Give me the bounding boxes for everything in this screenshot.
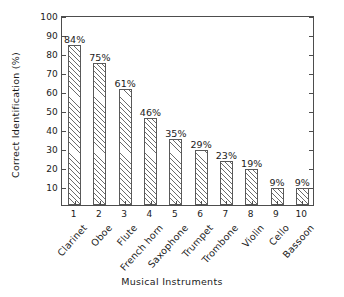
y-axis-tick-right (309, 150, 313, 151)
y-axis-tick-label: 70 (46, 69, 58, 79)
bar-value-label: 84% (64, 34, 85, 45)
y-axis-tick (62, 150, 66, 151)
y-axis-tick-right (309, 112, 313, 113)
y-axis-tick-right (309, 74, 313, 75)
y-axis-tick (62, 93, 66, 94)
y-axis-tick-label: 10 (46, 183, 58, 193)
bar (93, 63, 106, 206)
y-axis-tick-label: 50 (46, 107, 58, 117)
bar-value-label: 61% (115, 78, 136, 89)
bar-value-label: 35% (165, 128, 186, 139)
bar (68, 45, 81, 205)
y-axis-tick-right (309, 131, 313, 132)
x-axis-tick-label: 9 (273, 209, 279, 219)
chart-page: Correct Identification (%) 1020304050607… (0, 0, 344, 297)
y-axis-tick-label: 80 (46, 50, 58, 60)
x-axis-tick (151, 201, 152, 205)
x-axis-tick-label: 7 (222, 209, 228, 219)
y-axis-tick-label: 100 (40, 12, 58, 22)
bar-value-label: 9% (269, 177, 284, 188)
y-axis-tick-right (309, 188, 313, 189)
y-axis-tick-label: 90 (46, 31, 58, 41)
y-axis-tick-right (309, 55, 313, 56)
category-label-text: Clarinet (55, 222, 89, 258)
y-axis-tick-right (309, 36, 313, 37)
y-axis-tick-right (309, 93, 313, 94)
x-axis-tick-label: 5 (172, 209, 178, 219)
y-axis-tick-right (309, 17, 313, 18)
y-axis-tick-label: 20 (46, 164, 58, 174)
bar-value-label: 9% (295, 177, 310, 188)
x-axis-tick (302, 201, 303, 205)
x-axis-tick-label: 6 (197, 209, 203, 219)
y-axis-tick (62, 188, 66, 189)
plot-area: 10203040506070809010084%75%61%46%35%29%2… (61, 16, 314, 206)
bar-value-label: 29% (190, 139, 211, 150)
y-axis-tick-right (309, 169, 313, 170)
x-axis-tick-label: 10 (295, 209, 307, 219)
category-label-text: Violin (240, 222, 266, 250)
y-axis-tick (62, 169, 66, 170)
x-axis-tick-label: 4 (147, 209, 153, 219)
y-axis-tick-label: 60 (46, 88, 58, 98)
bar-value-label: 23% (216, 150, 237, 161)
y-axis-tick (62, 131, 66, 132)
y-axis-tick-label: 40 (46, 126, 58, 136)
x-axis-tick-label: 8 (248, 209, 254, 219)
x-axis-tick-label: 2 (96, 209, 102, 219)
bar-value-label: 46% (140, 107, 161, 118)
x-axis-tick-label: 1 (71, 209, 77, 219)
y-axis-tick (62, 74, 66, 75)
bar-value-label: 19% (241, 158, 262, 169)
category-label-text: Oboe (89, 222, 115, 249)
bar-value-label: 75% (89, 52, 110, 63)
y-axis-title: Correct Identification (%) (10, 15, 24, 215)
y-axis-tick (62, 112, 66, 113)
y-axis-tick (62, 55, 66, 56)
x-axis-tick (75, 201, 76, 205)
y-axis-tick-label: 30 (46, 145, 58, 155)
y-axis-tick (62, 17, 66, 18)
bar (144, 118, 157, 205)
x-axis-tick-label: 3 (121, 209, 127, 219)
bar (119, 89, 132, 205)
x-axis-title: Musical Instruments (0, 276, 344, 287)
